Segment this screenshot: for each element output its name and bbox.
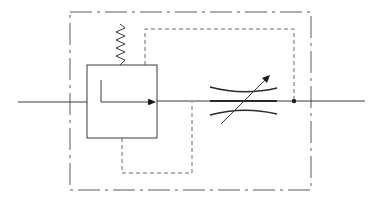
spring-icon bbox=[116, 24, 125, 65]
flow-arrow-icon bbox=[149, 99, 156, 105]
throttle-upper-arc bbox=[210, 87, 277, 92]
compensator-flow-path bbox=[101, 80, 153, 102]
schematic-canvas bbox=[0, 0, 380, 202]
throttle-lower-arc bbox=[210, 110, 277, 115]
